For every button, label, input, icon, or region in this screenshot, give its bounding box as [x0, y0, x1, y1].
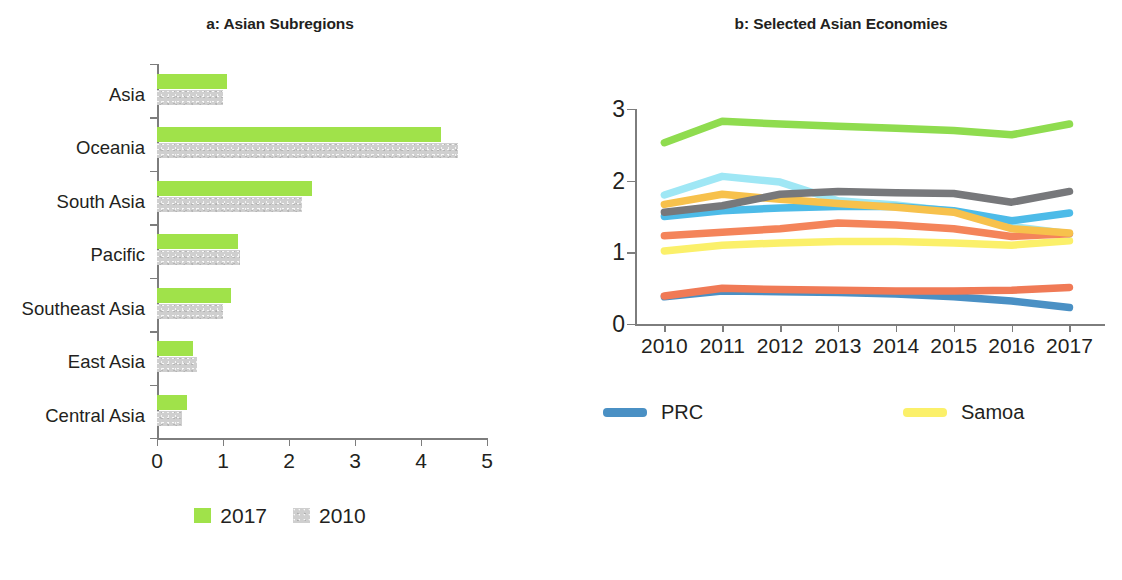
- bar-chart-x-tick-label: 0: [151, 450, 163, 471]
- line-chart-plot-area: 0123 20102011201220132014201520162017: [635, 109, 1105, 324]
- line-chart-x-tick: [1069, 324, 1070, 332]
- bar-chart-y-tick: [150, 331, 157, 332]
- bar-2010: [157, 250, 240, 265]
- line-chart-x-tick: [780, 324, 781, 332]
- bar-chart-category-group: Southeast Asia: [157, 288, 487, 341]
- bar-chart-category-label: Oceania: [76, 139, 145, 158]
- line-chart-x-tick: [722, 324, 723, 332]
- line-legend-entry: PRC: [603, 402, 903, 422]
- line-chart-y-tick: [627, 109, 635, 110]
- line-chart-series: [635, 109, 1105, 324]
- line-series-samoa: [664, 241, 1069, 251]
- bar-2017: [157, 234, 238, 249]
- line-legend-swatch: [603, 408, 647, 417]
- bar-2010: [157, 304, 223, 319]
- panel-asian-subregions: a: Asian Subregions 012345 AsiaOceaniaSo…: [0, 0, 560, 580]
- bar-chart-x-tick: [487, 438, 488, 446]
- line-chart-x-tick-label: 2011: [700, 335, 745, 356]
- bar-chart-y-tick: [150, 385, 157, 386]
- line-chart-x-tick: [1012, 324, 1013, 332]
- bar-legend-entry: 2010: [293, 505, 366, 526]
- bar-chart-category-label: East Asia: [68, 353, 145, 372]
- line-chart-x-tick-label: 2013: [815, 335, 862, 356]
- line-chart-x-tick-label: 2014: [872, 335, 919, 356]
- panel-selected-asian-economies: b: Selected Asian Economies 0123 2010201…: [560, 0, 1122, 580]
- bar-legend-entry: 2017: [194, 505, 267, 526]
- bar-legend-label: 2017: [220, 505, 267, 526]
- line-chart-y-tick-label: 0: [612, 313, 625, 336]
- bar-legend-label: 2010: [319, 505, 366, 526]
- line-chart-x-tick-label: 2016: [988, 335, 1035, 356]
- line-chart-y-tick: [627, 324, 635, 325]
- bar-chart-category-label: Central Asia: [45, 407, 145, 426]
- bar-2017: [157, 74, 227, 89]
- line-chart-x-axis: [635, 324, 1105, 326]
- panel-a-title: a: Asian Subregions: [0, 15, 560, 33]
- bar-chart-category-label: South Asia: [57, 193, 145, 212]
- bar-chart-category-group: Asia: [157, 74, 487, 127]
- line-series-india: [664, 121, 1069, 142]
- bar-chart-category-group: Pacific: [157, 234, 487, 287]
- line-chart-legend: PRCSamoaJapanFijiIndiaGeorgiaPalauKorea,…: [603, 395, 1122, 429]
- bar-chart-x-tick-label: 2: [283, 450, 295, 471]
- line-legend-label: Samoa: [961, 402, 1024, 422]
- bar-chart-category-label: Southeast Asia: [22, 300, 145, 319]
- bar-2017: [157, 395, 187, 410]
- bar-chart-y-tick: [150, 171, 157, 172]
- bar-chart-category-label: Asia: [109, 86, 145, 105]
- bar-2017: [157, 341, 193, 356]
- bar-chart-x-tick-label: 5: [481, 450, 493, 471]
- bar-2010: [157, 143, 458, 158]
- bar-2010: [157, 197, 302, 212]
- bar-chart-legend: 20172010: [0, 505, 560, 526]
- line-chart-x-tick: [954, 324, 955, 332]
- bar-chart-category-group: South Asia: [157, 181, 487, 234]
- bar-chart-x-tick-label: 1: [217, 450, 229, 471]
- bar-legend-swatch: [194, 508, 211, 523]
- bar-chart-category-label: Pacific: [91, 246, 146, 265]
- line-chart-x-tick: [664, 324, 665, 332]
- bar-legend-swatch: [293, 508, 310, 523]
- line-legend-swatch: [903, 408, 947, 417]
- line-chart-x-tick: [896, 324, 897, 332]
- line-chart-x-tick-label: 2017: [1046, 335, 1093, 356]
- bar-2017: [157, 181, 312, 196]
- bar-chart-y-tick: [150, 117, 157, 118]
- bar-chart-category-group: East Asia: [157, 341, 487, 394]
- bar-chart-x-tick-label: 4: [415, 450, 427, 471]
- line-chart-y-tick: [627, 181, 635, 182]
- line-chart-y-tick-label: 2: [612, 169, 625, 192]
- panel-b-title: b: Selected Asian Economies: [560, 15, 1122, 33]
- line-legend-label: PRC: [661, 402, 703, 422]
- line-chart-x-tick-label: 2012: [757, 335, 804, 356]
- bar-2017: [157, 127, 441, 142]
- bar-2017: [157, 288, 231, 303]
- bar-chart-y-tick: [150, 224, 157, 225]
- line-chart-y-tick-label: 1: [612, 241, 625, 264]
- line-chart-y-tick: [627, 252, 635, 253]
- bar-chart-plot-area: 012345 AsiaOceaniaSouth AsiaPacificSouth…: [157, 64, 487, 438]
- bar-2010: [157, 357, 197, 372]
- line-legend-entry: Samoa: [903, 402, 1122, 422]
- line-chart-x-tick: [838, 324, 839, 332]
- line-chart-x-tick-label: 2010: [641, 335, 688, 356]
- bar-chart-y-tick: [150, 64, 157, 65]
- bar-chart-x-tick-label: 3: [349, 450, 361, 471]
- bar-chart-category-group: Central Asia: [157, 395, 487, 448]
- bar-2010: [157, 411, 182, 426]
- bar-chart-y-tick: [150, 438, 157, 439]
- bar-chart-y-tick: [150, 278, 157, 279]
- line-chart-x-tick-label: 2015: [930, 335, 977, 356]
- bar-2010: [157, 90, 223, 105]
- line-chart-y-tick-label: 3: [612, 98, 625, 121]
- bar-chart-category-group: Oceania: [157, 127, 487, 180]
